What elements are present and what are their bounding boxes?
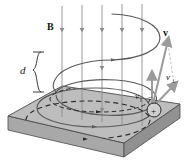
- diagram-canvas: d B v v ‖ v ⊥ +: [0, 0, 187, 164]
- field-arrow: [100, 66, 105, 70]
- velocity-perp-label: v: [166, 72, 170, 82]
- velocity-perp-label-group: v ⊥: [166, 72, 176, 84]
- charge-sign: +: [151, 106, 156, 116]
- magnetic-field-label: B: [47, 21, 54, 32]
- helix-arrow: [111, 58, 116, 61]
- velocity-parallel-label: v: [135, 91, 139, 101]
- brace-shape: [33, 52, 41, 92]
- velocity-vectors: [146, 40, 175, 108]
- positive-charge: +: [147, 103, 161, 117]
- field-arrow: [140, 28, 145, 32]
- field-arrow: [80, 28, 85, 32]
- field-arrow: [60, 28, 65, 32]
- field-arrow: [120, 28, 125, 32]
- velocity-label: v: [163, 27, 168, 38]
- pitch-brace: [33, 52, 44, 92]
- pitch-label: d: [20, 64, 26, 76]
- field-arrow: [100, 28, 105, 32]
- velocity-perp-subscript: ⊥: [171, 78, 176, 84]
- physics-diagram: d B v v ‖ v ⊥ +: [0, 0, 187, 164]
- helix-entry-arc: [112, 14, 160, 60]
